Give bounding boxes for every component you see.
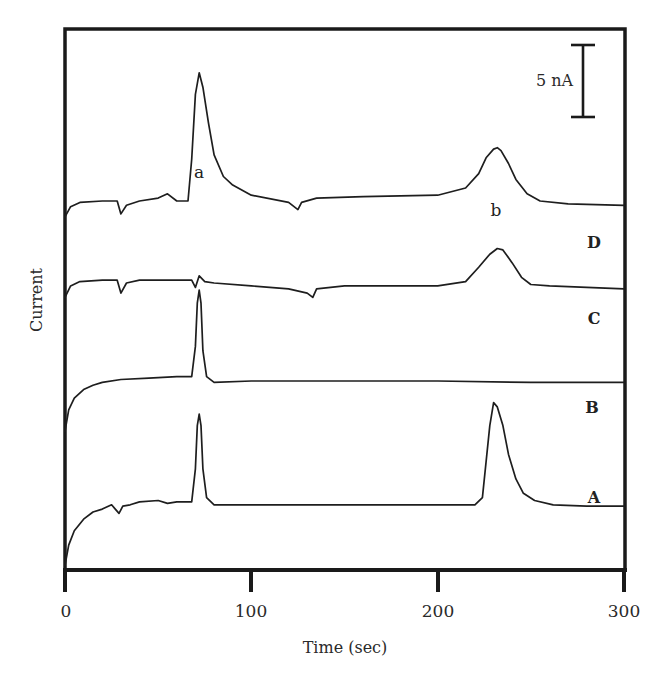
traces [65, 73, 624, 566]
trace-b [65, 290, 624, 431]
scale-bar-label: 5 nA [536, 71, 574, 90]
trace-c [65, 249, 624, 298]
x-axis-title: Time (sec) [303, 638, 388, 657]
x-tick-label-300: 300 [608, 601, 640, 621]
plot-frame [65, 29, 625, 570]
trace-label-a: A [587, 488, 601, 507]
x-tick-label-0: 0 [61, 601, 72, 621]
trace-label-c: C [588, 309, 601, 328]
trace-d [65, 73, 624, 217]
amperometry-chart: 0 100 200 300 Time (sec) Current 5 nA a … [0, 0, 664, 683]
x-tick-label-100: 100 [235, 601, 267, 621]
trace-label-b: B [585, 398, 599, 417]
peak-label-a: a [194, 162, 204, 182]
y-axis-title: Current [27, 267, 46, 332]
trace-label-d: D [587, 233, 601, 252]
x-tick-labels: 0 100 200 300 [61, 601, 641, 621]
x-ticks [65, 570, 624, 592]
scale-bar: 5 nA [536, 45, 595, 117]
x-tick-label-200: 200 [422, 601, 454, 621]
trace-a [65, 403, 624, 566]
peak-label-b: b [491, 200, 502, 220]
